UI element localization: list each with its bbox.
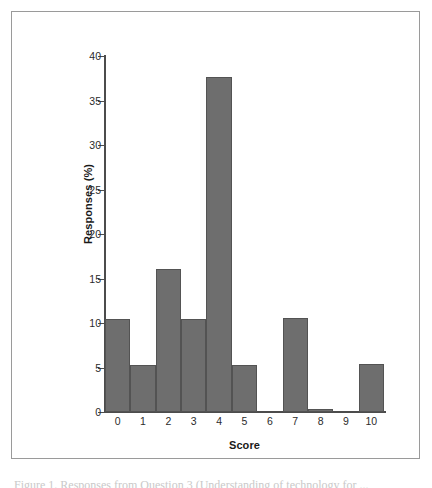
bar xyxy=(232,365,257,412)
x-tick-label: 8 xyxy=(318,416,324,427)
x-axis-title: Score xyxy=(105,439,384,451)
x-tick-label: 9 xyxy=(343,416,349,427)
y-tick-label: 0 xyxy=(95,407,101,418)
x-tick-label: 7 xyxy=(292,416,298,427)
x-tick-label: 4 xyxy=(216,416,222,427)
y-tick-label: 35 xyxy=(89,95,101,106)
y-tick-label: 5 xyxy=(95,362,101,373)
figure-border: Responses (%) Score 0510152025303540 012… xyxy=(11,11,420,459)
bar xyxy=(283,318,308,412)
bar xyxy=(130,365,155,412)
figure-panel: Responses (%) Score 0510152025303540 012… xyxy=(0,0,432,488)
y-tick-label: 25 xyxy=(89,184,101,195)
bar xyxy=(105,319,130,412)
x-tick-label: 5 xyxy=(242,416,248,427)
x-tick-label: 10 xyxy=(365,416,377,427)
bar xyxy=(359,364,384,412)
x-tick-label: 0 xyxy=(115,416,121,427)
bar xyxy=(181,319,206,412)
bar xyxy=(156,269,181,412)
y-tick-label: 15 xyxy=(89,273,101,284)
x-tick-label: 1 xyxy=(140,416,146,427)
y-tick-label: 30 xyxy=(89,140,101,151)
bar xyxy=(206,77,231,412)
plot-area xyxy=(105,56,384,412)
y-tick-label: 20 xyxy=(89,229,101,240)
y-tick-label: 40 xyxy=(89,51,101,62)
x-tick-label: 3 xyxy=(191,416,197,427)
figure-caption: Figure 1. Responses from Question 3 (Und… xyxy=(14,478,414,488)
x-tick-label: 2 xyxy=(165,416,171,427)
y-tick-label: 10 xyxy=(89,318,101,329)
bar xyxy=(308,409,333,412)
x-tick-label: 6 xyxy=(267,416,273,427)
